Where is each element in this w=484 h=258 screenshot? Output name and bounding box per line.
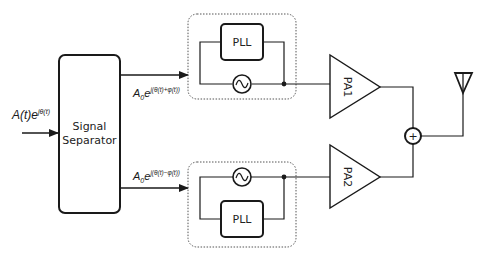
plus-icon: + [408,130,417,143]
bottom-pll-group: PLL [188,162,296,247]
pa1-label: PA1 [341,77,354,97]
pa1-amplifier: PA1 [330,55,380,118]
top-branch-signal-label: A0ej(θ(t)+φ(t)) [132,86,180,101]
outphasing-transmitter-diagram: A(t)ejθ(t) Signal Separator A0ej(θ(t)+φ(… [0,0,484,258]
bottom-branch-signal-label: A0ej(θ(t)−φ(t)) [132,169,180,184]
top-pll-group: PLL [188,14,296,99]
separator-label-line2: Separator [62,134,117,147]
input-signal-label: A(t)ejθ(t) [11,108,50,122]
pa2-amplifier: PA2 [330,145,380,208]
pa2-output-wire [380,144,413,177]
signal-separator-block: Signal Separator [59,55,120,213]
combiner-summer: + [405,128,421,144]
bottom-oscillator-icon [233,168,251,186]
pa2-label: PA2 [341,167,354,187]
antenna-feed-wire [421,92,463,136]
bottom-pll-label: PLL [233,213,253,226]
top-oscillator-icon [233,75,251,93]
antenna-icon [455,73,472,93]
top-pll-label: PLL [233,36,253,49]
pa1-output-wire [380,87,413,128]
separator-label-line1: Signal [73,120,107,133]
